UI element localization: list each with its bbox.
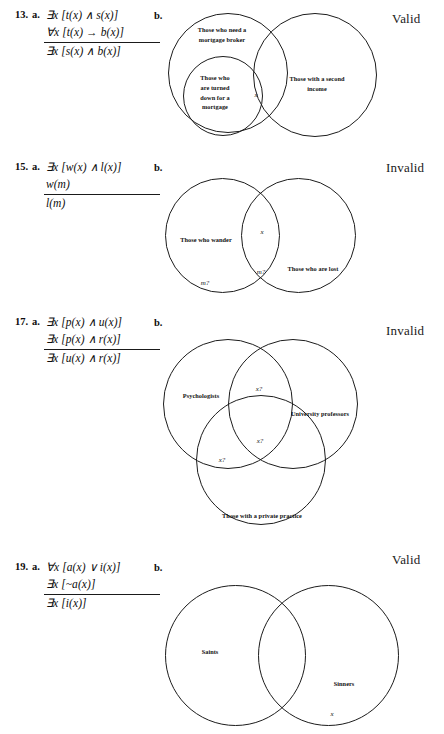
- verdict-15: Invalid: [386, 160, 424, 176]
- conclusion-15: l(m): [44, 196, 68, 213]
- premise-1-15: ∃x [w(x) ∧ l(x)]: [44, 160, 124, 177]
- formula-stack-15: ∃x [w(x) ∧ l(x)] w(m) l(m): [44, 160, 160, 213]
- argument-row: 17. a. ∃x [p(x) ∧ u(x)] ∃x [p(x) ∧ r(x)]…: [8, 315, 160, 368]
- conclusion-19: ∃x [i(x)]: [44, 596, 89, 613]
- premise-2-13: ∀x [t(x) → b(x)]: [44, 25, 160, 43]
- problem-15: 15. a. ∃x [w(x) ∧ l(x)] w(m) l(m) b. Inv…: [0, 160, 444, 295]
- mark-x-question-top-17: x?: [250, 385, 268, 393]
- premise-2-19: ∃x [~a(x)]: [44, 577, 160, 595]
- part-b-label-15: b.: [154, 162, 162, 173]
- part-b-label-19: b.: [154, 562, 162, 573]
- problem-number-13: 13.: [8, 8, 28, 21]
- mark-m-question-left-15: m?: [196, 279, 214, 287]
- mark-x-13: x: [249, 91, 263, 99]
- textbook-page: 13. a. ∃x [t(x) ∧ s(x)] ∀x [t(x) → b(x)]…: [0, 0, 444, 734]
- label-psychologists: Psychologists: [170, 391, 232, 401]
- formula-stack-13: ∃x [t(x) ∧ s(x)] ∀x [t(x) → b(x)] ∃x [s(…: [44, 8, 160, 61]
- problem-number-19: 19.: [8, 560, 28, 573]
- premise-2-15: w(m): [44, 177, 160, 195]
- problem-13: 13. a. ∃x [t(x) ∧ s(x)] ∀x [t(x) → b(x)]…: [0, 8, 444, 148]
- mark-x-question-left-17: x?: [213, 456, 231, 464]
- argument-13: 13. a. ∃x [t(x) ∧ s(x)] ∀x [t(x) → b(x)]…: [8, 8, 160, 61]
- verdict-13: Valid: [392, 11, 420, 27]
- argument-15: 15. a. ∃x [w(x) ∧ l(x)] w(m) l(m) b.: [8, 160, 160, 213]
- label-second-income: Those with a second income: [281, 74, 353, 94]
- venn-diagram-17: Psychologists University professors Thos…: [160, 315, 395, 520]
- label-those-who-are-lost: Those who are lost: [277, 264, 349, 274]
- part-a-label-17: a.: [28, 315, 44, 328]
- argument-row: 19. a. ∀x [a(x) ∨ i(x)] ∃x [~a(x)] ∃x [i…: [8, 560, 160, 613]
- venn-diagram-13: Those who need a mortgage broker Those w…: [165, 8, 380, 153]
- premise-1-13: ∃x [t(x) ∧ s(x)]: [44, 8, 120, 25]
- part-a-label-15: a.: [28, 160, 44, 173]
- argument-row: 15. a. ∃x [w(x) ∧ l(x)] w(m) l(m): [8, 160, 160, 213]
- premise-2-17: ∃x [p(x) ∧ r(x)]: [44, 332, 160, 350]
- label-sinners: Sinners: [323, 679, 365, 689]
- conclusion-17: ∃x [u(x) ∧ r(x)]: [44, 351, 123, 368]
- circle-sinners: [258, 585, 399, 726]
- label-saints: Saints: [190, 647, 230, 657]
- verdict-19: Valid: [392, 552, 420, 568]
- formula-stack-19: ∀x [a(x) ∨ i(x)] ∃x [~a(x)] ∃x [i(x)]: [44, 560, 160, 613]
- label-private-practice: Those with a private practice: [209, 511, 315, 521]
- premise-1-17: ∃x [p(x) ∧ u(x)]: [44, 315, 124, 332]
- premise-1-19: ∀x [a(x) ∨ i(x)]: [44, 560, 123, 577]
- argument-17: 17. a. ∃x [p(x) ∧ u(x)] ∃x [p(x) ∧ r(x)]…: [8, 315, 160, 368]
- label-turned-down-for-mortgage: Those who are turned down for a mortgage: [187, 73, 243, 112]
- mark-x-15: x: [255, 228, 269, 236]
- venn-diagram-19: Saints Sinners x: [165, 552, 380, 722]
- mark-x-19: x: [325, 710, 339, 718]
- mark-x-question-center-17: x?: [251, 437, 269, 445]
- problem-19: 19. a. ∀x [a(x) ∨ i(x)] ∃x [~a(x)] ∃x [i…: [0, 560, 444, 734]
- label-university-professors: University professors: [278, 409, 362, 419]
- problem-number-17: 17.: [8, 315, 28, 328]
- conclusion-13: ∃x [s(x) ∧ b(x)]: [44, 44, 123, 61]
- argument-19: 19. a. ∀x [a(x) ∨ i(x)] ∃x [~a(x)] ∃x [i…: [8, 560, 160, 613]
- label-those-who-wander: Those who wander: [170, 235, 242, 245]
- mark-m-question-overlap-15: m?: [252, 268, 270, 276]
- problem-number-15: 15.: [8, 160, 28, 173]
- formula-stack-17: ∃x [p(x) ∧ u(x)] ∃x [p(x) ∧ r(x)] ∃x [u(…: [44, 315, 160, 368]
- label-need-mortgage-broker: Those who need a mortgage broker: [182, 25, 262, 45]
- venn-diagram-15: Those who wander Those who are lost x m?…: [165, 160, 380, 295]
- part-a-label-19: a.: [28, 560, 44, 573]
- part-b-label-13: b.: [154, 10, 162, 21]
- argument-row: 13. a. ∃x [t(x) ∧ s(x)] ∀x [t(x) → b(x)]…: [8, 8, 160, 61]
- problem-17: 17. a. ∃x [p(x) ∧ u(x)] ∃x [p(x) ∧ r(x)]…: [0, 315, 444, 520]
- part-a-label-13: a.: [28, 8, 44, 21]
